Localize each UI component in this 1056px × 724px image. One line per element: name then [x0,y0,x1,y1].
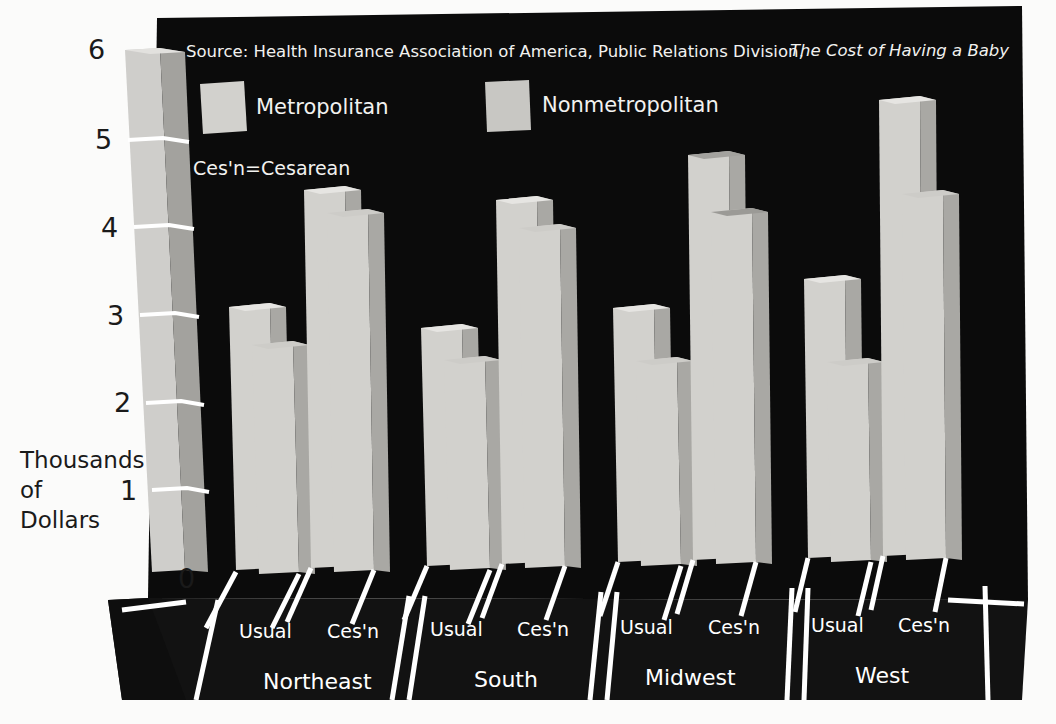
y-tick-6: 6 [88,34,105,65]
bar-midwest-usual-nonmetropolitan[interactable] [636,357,697,566]
bar-group-south-cesn [496,196,581,568]
group-sep-4 [985,586,988,700]
source-prefix: Source: Health Insurance Association of … [186,42,804,61]
sub-label-west-cesn: Ces'n [898,614,950,636]
y-tick-1: 1 [120,475,137,506]
sub-label-south-cesn: Ces'n [517,618,569,640]
bar-northeast-cesn-nonmetropolitan[interactable] [327,209,390,572]
y-axis-title-line3: Dollars [20,507,100,533]
bar-front [827,358,871,562]
sub-label-south-usual: Usual [430,618,483,640]
bar-front [327,209,374,572]
y-tick-3: 3 [107,300,124,331]
legend-swatch-nonmetropolitan [485,80,531,132]
sub-label-midwest-cesn: Ces'n [708,616,760,638]
bar-side [943,190,962,560]
legend-label-nonmetropolitan: Nonmetropolitan [542,93,719,117]
sub-label-northeast-cesn: Ces'n [327,620,379,642]
y-axis-title-line1: Thousands [19,447,145,473]
legend-swatch-metropolitan [200,81,247,134]
y-tick-5: 5 [95,124,112,155]
bar-group-northeast-cesn [304,186,390,572]
bar-front [519,224,565,568]
y-axis-title-line2: of [20,477,43,503]
bar-south-usual-nonmetropolitan[interactable] [444,356,506,570]
bar-group-midwest-cesn [688,151,772,564]
bar-front [902,190,946,560]
bar-front [636,357,681,566]
bar-front [252,341,299,574]
bar-west-usual-nonmetropolitan[interactable] [827,358,887,562]
group-label-south: South [474,667,538,692]
sub-label-west-usual: Usual [811,614,864,636]
chart-page: 6 5 4 3 2 1 0 Thousands of Dollars [0,0,1056,724]
legend-label-metropolitan: Metropolitan [256,95,389,119]
sub-label-midwest-usual: Usual [620,616,673,638]
group-label-northeast: Northeast [263,669,372,694]
bar-group-south-usual [421,324,506,570]
bar-midwest-cesn-nonmetropolitan[interactable] [711,208,772,564]
bar-front [444,356,490,570]
y-tick-4: 4 [101,212,118,243]
group-label-midwest: Midwest [645,665,736,690]
bar-west-cesn-nonmetropolitan[interactable] [902,190,962,560]
bar-northeast-usual-nonmetropolitan[interactable] [252,341,315,574]
y-tick-0: 0 [178,563,195,594]
y-tick-2: 2 [114,387,131,418]
bar-group-northeast-usual [229,303,315,574]
group-label-west: West [855,663,909,688]
sub-label-northeast-usual: Usual [239,620,292,642]
source-line: Source: Health Insurance Association of … [186,41,1009,61]
bar-south-cesn-nonmetropolitan[interactable] [519,224,581,568]
bar-front [711,208,756,564]
three-d-bar-chart: 6 5 4 3 2 1 0 Thousands of Dollars [0,0,1056,724]
cesarean-note: Ces'n=Cesarean [193,157,350,179]
source-italic-title: The Cost of Having a Baby [790,41,1009,60]
